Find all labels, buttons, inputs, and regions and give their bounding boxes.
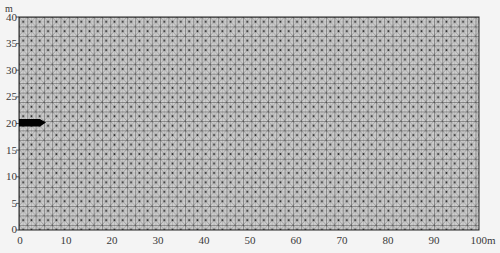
- y-tick-label: 5: [1, 198, 17, 209]
- y-tick-label: 30: [1, 65, 17, 76]
- mesh-plot: [0, 0, 500, 253]
- y-tick-label: 15: [1, 145, 17, 156]
- x-tick-label: 40: [189, 235, 219, 246]
- y-tick-label: 35: [1, 38, 17, 49]
- y-tick-label: 20: [1, 118, 17, 129]
- x-tick-label: 70: [327, 235, 357, 246]
- y-tick-label: 40: [1, 12, 17, 23]
- mesh-figure: m 40 35 30 25 20 15 10 5 0 0 10 20 30 40…: [0, 0, 500, 253]
- x-tick-label: 50: [235, 235, 265, 246]
- x-tick-label: 30: [143, 235, 173, 246]
- x-tick-label: 80: [373, 235, 403, 246]
- x-tick-label: 90: [419, 235, 449, 246]
- x-tick-label: 0: [5, 235, 35, 246]
- x-tick-label: 10: [51, 235, 81, 246]
- x-tick-label: 20: [97, 235, 127, 246]
- mesh-domain: [19, 17, 479, 230]
- x-tick-label: 100m: [468, 235, 498, 246]
- y-tick-label: 10: [1, 171, 17, 182]
- y-tick-label: 0: [1, 224, 17, 235]
- y-tick-label: 25: [1, 91, 17, 102]
- x-tick-label: 60: [281, 235, 311, 246]
